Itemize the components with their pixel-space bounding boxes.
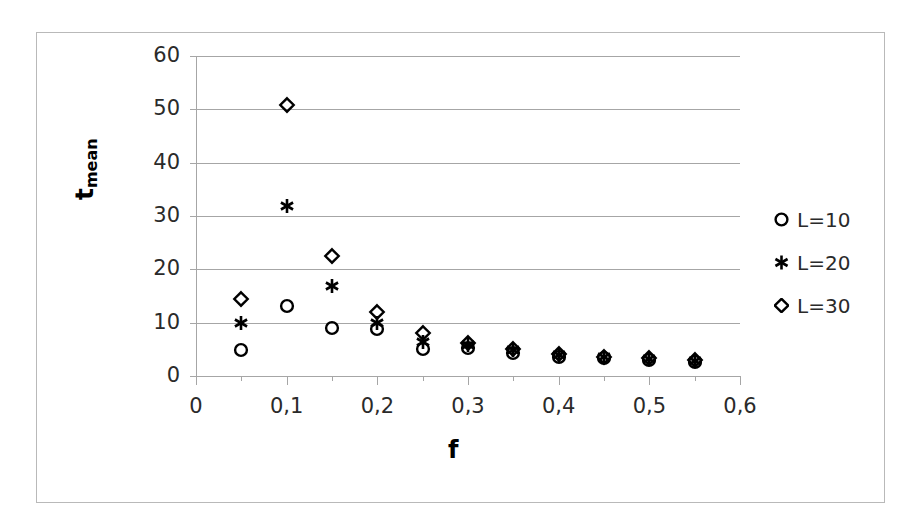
x-axis-minor-tick — [241, 376, 242, 381]
legend-item-label: L=10 — [797, 210, 850, 230]
x-axis-tick-label: 0,5 — [633, 396, 666, 417]
x-axis-tick-label: 0,2 — [361, 396, 394, 417]
data-point — [642, 353, 657, 368]
data-point — [597, 349, 612, 364]
y-axis-tick-label: 50 — [100, 98, 180, 119]
x-axis-tick — [468, 376, 469, 385]
legend-item-label: L=30 — [797, 296, 850, 316]
x-axis-tick-label: 0,1 — [270, 396, 303, 417]
x-axis-tick — [196, 376, 197, 385]
y-axis-tick-label: 10 — [100, 312, 180, 333]
y-axis-tick-label: 20 — [100, 258, 180, 279]
gridline — [196, 269, 740, 270]
x-axis-minor-tick — [423, 376, 424, 381]
y-axis-line — [196, 56, 197, 376]
data-point — [415, 334, 430, 349]
data-point — [415, 342, 430, 357]
data-point — [642, 351, 657, 366]
x-axis-minor-tick — [695, 376, 696, 381]
y-axis-tick — [190, 163, 196, 164]
data-point — [415, 326, 430, 341]
y-axis-tick-label: 60 — [100, 45, 180, 66]
x-axis-tick — [287, 376, 288, 385]
gridline — [196, 323, 740, 324]
x-axis-title: f — [448, 438, 458, 462]
legend-item-l-30[interactable]: L=30 — [772, 284, 882, 327]
data-point — [551, 349, 566, 364]
gridline — [196, 216, 740, 217]
y-axis-tick-label: 0 — [100, 365, 180, 386]
x-axis-minor-tick — [332, 376, 333, 381]
y-axis-tick — [190, 216, 196, 217]
plot-area — [196, 56, 740, 376]
x-axis-tick — [559, 376, 560, 385]
data-point — [279, 298, 294, 313]
x-axis-tick-label: 0,3 — [451, 396, 484, 417]
y-axis-tick — [190, 56, 196, 57]
data-point — [597, 350, 612, 365]
legend-item-l-20[interactable]: L=20 — [772, 241, 882, 284]
data-point — [551, 348, 566, 363]
data-point — [461, 341, 476, 356]
data-point — [461, 335, 476, 350]
data-point — [597, 351, 612, 366]
data-point — [325, 249, 340, 264]
x-axis-tick-label: 0,6 — [723, 396, 756, 417]
x-axis-tick — [649, 376, 650, 385]
y-axis-tick-label: 40 — [100, 152, 180, 173]
x-axis-minor-tick — [604, 376, 605, 381]
data-point — [687, 353, 702, 368]
data-point — [506, 342, 521, 357]
open-circle-icon — [772, 211, 790, 229]
x-axis-minor-tick — [513, 376, 514, 381]
data-point — [687, 353, 702, 368]
data-point — [234, 342, 249, 357]
y-axis-title-subscript: mean — [82, 138, 101, 188]
gridline — [196, 56, 740, 57]
data-point — [234, 291, 249, 306]
y-axis-title-base: t — [70, 188, 99, 200]
data-point — [642, 351, 657, 366]
asterisk-icon — [772, 254, 790, 272]
gridline — [196, 163, 740, 164]
data-point — [506, 341, 521, 356]
y-axis-title: tmean — [72, 138, 97, 200]
chart-figure: 0102030405060 00,10,20,30,40,50,6 tmean … — [0, 0, 918, 531]
y-axis-tick — [190, 109, 196, 110]
legend-item-label: L=20 — [797, 253, 850, 273]
legend-item-l-10[interactable]: L=10 — [772, 198, 882, 241]
data-point — [370, 305, 385, 320]
x-axis-tick-label: 0 — [189, 396, 202, 417]
y-axis-tick — [190, 269, 196, 270]
data-point — [325, 278, 340, 293]
data-point — [279, 198, 294, 213]
y-axis-tick — [190, 323, 196, 324]
data-point — [461, 338, 476, 353]
gridline — [196, 109, 740, 110]
x-axis-tick-label: 0,4 — [542, 396, 575, 417]
chart-legend: L=10L=20L=30 — [772, 198, 882, 327]
x-axis-tick — [740, 376, 741, 385]
data-point — [551, 347, 566, 362]
data-point — [506, 345, 521, 360]
y-axis-tick-label: 30 — [100, 205, 180, 226]
x-axis-tick — [377, 376, 378, 385]
data-point — [687, 354, 702, 369]
open-diamond-icon — [772, 297, 790, 315]
